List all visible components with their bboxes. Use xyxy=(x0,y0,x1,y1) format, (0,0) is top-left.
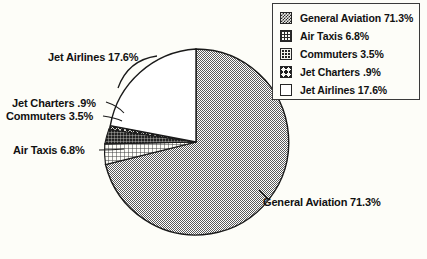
legend-item-jet-airlines[interactable]: Jet Airlines 17.6% xyxy=(280,81,419,99)
legend-item-general-aviation[interactable]: General Aviation 71.3% xyxy=(280,9,419,27)
callout-general-aviation: General Aviation 71.3% xyxy=(263,196,381,208)
legend-item-air-taxis[interactable]: Air Taxis 6.8% xyxy=(280,27,419,45)
legend-item-commuters[interactable]: Commuters 3.5% xyxy=(280,45,419,63)
light-grid-swatch-icon xyxy=(280,30,292,42)
legend-item-jet-charters[interactable]: Jet Charters .9% xyxy=(280,63,419,81)
callout-jet-charters: Jet Charters .9% xyxy=(12,97,96,109)
chart-legend: General Aviation 71.3% Air Taxis 6.8% Co… xyxy=(272,3,420,100)
callout-air-taxis: Air Taxis 6.8% xyxy=(13,144,85,156)
plain-white-swatch-icon xyxy=(280,84,292,96)
dense-grid-swatch-icon xyxy=(280,48,292,60)
callout-jet-airlines: Jet Airlines 17.6% xyxy=(48,51,138,63)
callout-commuters: Commuters 3.5% xyxy=(6,110,93,122)
diagonal-cross-swatch-icon xyxy=(280,66,292,78)
legend-label: Air Taxis 6.8% xyxy=(300,30,369,42)
legend-label: Commuters 3.5% xyxy=(300,48,384,60)
legend-label: General Aviation 71.3% xyxy=(300,12,413,24)
checker-dither-swatch-icon xyxy=(280,12,292,24)
legend-label: Jet Airlines 17.6% xyxy=(300,84,387,96)
chart-canvas: Jet Airlines 17.6% Jet Charters .9% Comm… xyxy=(0,0,427,259)
legend-label: Jet Charters .9% xyxy=(300,66,381,78)
